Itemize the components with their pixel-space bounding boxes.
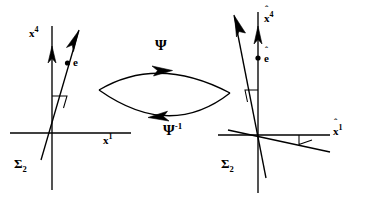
forward-map-arrowhead	[152, 66, 173, 76]
right-event-hat: ˆ	[265, 46, 268, 55]
left-event-label-text: e	[73, 56, 78, 68]
figure-root: x4 e x1 Σ2 Ψ Ψ-1 ˆx4 ˆe ˆx1 Σ2	[0, 0, 365, 209]
right-horizontal-axis-label-sup: 1	[339, 123, 343, 132]
right-horizontal-axis-hatwrap: ˆx	[333, 126, 339, 137]
right-vertical-axis-hatwrap: ˆx	[264, 13, 270, 24]
left-frame-label-base: Σ	[14, 156, 23, 171]
right-event-hatwrap: ˆe	[264, 53, 269, 64]
right-horizontal-angle-marker	[299, 135, 312, 145]
left-horizontal-axis-label: x1	[103, 133, 113, 146]
left-frame-label: Σ2	[14, 157, 27, 173]
right-vertical-axis-hat: ˆ	[265, 5, 268, 15]
right-vertical-axis-label-sup: 4	[270, 10, 274, 19]
right-frame-label-sub: 2	[230, 164, 234, 174]
right-frame-group	[218, 12, 330, 193]
left-vertical-axis-label-sup: 4	[35, 25, 39, 34]
diagram-canvas	[0, 0, 365, 209]
right-event-point	[255, 55, 260, 60]
left-event-label: e	[73, 57, 78, 68]
left-event-point	[65, 60, 70, 65]
right-frame-label: Σ2	[221, 157, 234, 173]
right-event-label: ˆe	[264, 53, 269, 64]
forward-map-arc	[99, 73, 230, 93]
left-worldline-arrowhead	[67, 31, 79, 52]
left-frame-group	[10, 26, 131, 190]
mapping-arrows-group	[99, 66, 230, 121]
inverse-map-label-sup: -1	[175, 121, 183, 131]
right-frame-label-base: Σ	[221, 156, 230, 171]
forward-map-label-text: Ψ	[155, 37, 167, 53]
right-worldline-arrowhead	[235, 16, 246, 37]
left-horizontal-axis-label-sup: 1	[109, 132, 113, 141]
right-horizontal-axis-label: ˆx1	[333, 124, 343, 137]
right-angle-marker	[245, 90, 258, 102]
right-horizontal-axis-hat: ˆ	[334, 118, 337, 128]
left-frame-label-sub: 2	[23, 164, 27, 174]
inverse-map-label: Ψ-1	[163, 122, 182, 138]
forward-map-label: Ψ	[155, 38, 167, 53]
right-vertical-axis-label: ˆx4	[264, 11, 274, 24]
left-vertical-axis-label: x4	[29, 26, 39, 39]
inverse-map-label-base: Ψ	[163, 122, 175, 138]
right-simultaneity-line	[228, 130, 330, 152]
